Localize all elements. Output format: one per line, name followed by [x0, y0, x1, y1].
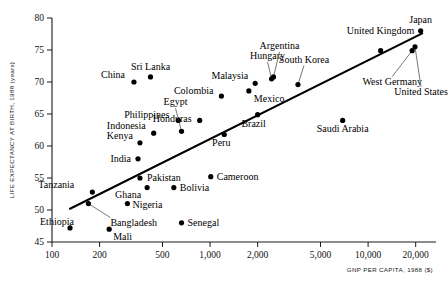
- data-point[interactable]: [222, 132, 227, 137]
- data-point-label: Senegal: [188, 217, 220, 228]
- data-point[interactable]: [340, 118, 345, 123]
- data-point[interactable]: [253, 81, 258, 86]
- data-point-label: Ethiopia: [40, 216, 74, 227]
- data-point[interactable]: [131, 79, 136, 84]
- data-point[interactable]: [418, 28, 423, 33]
- scatter-chart: 45505560657075801002005001,0002,0005,000…: [0, 0, 448, 282]
- y-axis-tick-label: 65: [35, 109, 45, 119]
- x-axis-tick-label: 2,000: [247, 250, 269, 260]
- y-axis-tick-label: 70: [35, 77, 45, 87]
- data-point[interactable]: [246, 88, 251, 93]
- data-point-label: Pakistan: [147, 172, 181, 183]
- data-point[interactable]: [412, 44, 417, 49]
- data-point[interactable]: [125, 201, 130, 206]
- data-point[interactable]: [271, 74, 276, 79]
- data-point[interactable]: [135, 156, 140, 161]
- data-point[interactable]: [295, 82, 300, 87]
- label-leader-line: [88, 204, 110, 218]
- y-axis-tick-label: 75: [35, 45, 45, 55]
- data-point-label: China: [101, 69, 125, 80]
- data-point[interactable]: [378, 48, 383, 53]
- data-point-label: India: [110, 153, 131, 164]
- y-axis-tick-label: 45: [35, 237, 45, 247]
- data-point-label: Malaysia: [212, 70, 249, 81]
- data-point[interactable]: [255, 112, 260, 117]
- label-leader-line: [268, 62, 272, 79]
- chart-canvas: 45505560657075801002005001,0002,0005,000…: [0, 0, 448, 282]
- data-point[interactable]: [179, 129, 184, 134]
- data-point-label: Mexico: [254, 93, 285, 104]
- data-point-label: Bolivia: [180, 182, 210, 193]
- data-point[interactable]: [145, 185, 150, 190]
- label-leader-line: [392, 51, 412, 77]
- data-point-label: Ghana: [115, 189, 142, 200]
- data-point[interactable]: [179, 220, 184, 225]
- data-point-label: Cameroon: [217, 171, 259, 182]
- data-point[interactable]: [219, 93, 224, 98]
- x-axis-title: GNP PER CAPITA, 1988 ($): [347, 266, 433, 273]
- data-point-label: Japan: [409, 14, 432, 25]
- data-point-label: Sri Lanka: [131, 61, 171, 72]
- data-point-label: Kenya: [107, 130, 134, 141]
- data-point-label: South Korea: [279, 54, 330, 65]
- data-point[interactable]: [90, 189, 95, 194]
- x-axis-tick-label: 1,000: [199, 250, 221, 260]
- data-point-label: Honduras: [153, 113, 192, 124]
- data-point-label: United Kingdom: [347, 25, 415, 36]
- data-point-label: Tanzania: [38, 179, 75, 190]
- data-point[interactable]: [208, 174, 213, 179]
- data-point-label: Egypt: [164, 96, 188, 107]
- data-point-label: Colombia: [174, 85, 214, 96]
- data-point-label: Peru: [212, 137, 230, 148]
- x-axis-tick-label: 100: [45, 250, 60, 260]
- y-axis-tick-label: 50: [35, 205, 45, 215]
- data-point[interactable]: [151, 131, 156, 136]
- y-axis-tick-label: 60: [35, 141, 45, 151]
- data-point-label: Nigeria: [132, 199, 163, 210]
- data-point-label: Argentina: [260, 40, 300, 51]
- data-point-label: Indonesia: [107, 120, 146, 131]
- data-point-label: United States: [394, 86, 448, 97]
- data-point[interactable]: [137, 140, 142, 145]
- data-point-label: Bangladesh: [110, 217, 157, 228]
- x-axis-tick-label: 500: [155, 250, 170, 260]
- data-point[interactable]: [148, 74, 153, 79]
- y-axis-tick-label: 80: [35, 13, 45, 23]
- data-point[interactable]: [86, 201, 91, 206]
- data-point-label: Mali: [113, 231, 132, 242]
- data-point[interactable]: [137, 175, 142, 180]
- x-axis-tick-label: 20,000: [403, 250, 429, 260]
- x-axis-tick-label: 10,000: [355, 250, 381, 260]
- data-point-label: Brazil: [241, 118, 266, 129]
- x-axis-tick-label: 5,000: [310, 250, 332, 260]
- data-point-label: Saudi Arabia: [317, 123, 369, 134]
- data-point[interactable]: [171, 185, 176, 190]
- data-point[interactable]: [197, 118, 202, 123]
- y-axis-title: LIFE EXPECTANCY AT BIRTH, 1988 (years): [8, 62, 15, 199]
- label-leader-line: [298, 66, 304, 85]
- x-axis-tick-label: 200: [92, 250, 107, 260]
